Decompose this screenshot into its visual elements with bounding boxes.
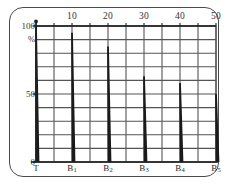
spike-body-B3: [143, 76, 147, 162]
data-spike-B1: [71, 33, 75, 162]
plot-canvas: [0, 0, 231, 190]
chart-area: 1020304050 050100% TB1B2B3B4B5: [0, 0, 231, 190]
spike-body-B1: [71, 33, 75, 162]
spike-body-B4: [179, 83, 183, 162]
y-axis-top-cap-marker: [34, 20, 38, 24]
data-spike-B2: [107, 46, 111, 162]
data-spike-B3: [143, 76, 147, 162]
spike-body-B5: [215, 94, 219, 162]
spike-body-B2: [107, 46, 111, 162]
data-spike-B4: [179, 83, 183, 162]
data-spike-B5: [215, 94, 219, 162]
